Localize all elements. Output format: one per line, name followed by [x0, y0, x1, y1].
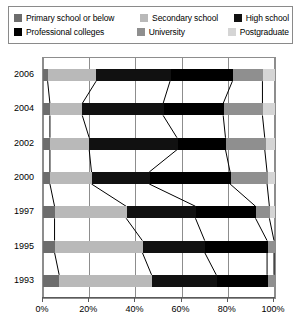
x-axis-tick	[134, 297, 135, 302]
y-axis-tick-label: 1995	[14, 241, 34, 251]
bar-segment	[43, 275, 59, 287]
y-axis-tick-label: 2000	[14, 172, 34, 182]
y-axis-tick-label: 2006	[14, 69, 34, 79]
bar-segment	[226, 138, 265, 150]
stacked-bars	[43, 58, 275, 298]
bar-segment	[92, 172, 150, 184]
bar-segment	[266, 138, 275, 150]
bar-segment	[268, 241, 275, 253]
x-axis-tick	[88, 297, 89, 302]
x-axis-tick	[273, 297, 274, 302]
legend-swatch-icon	[234, 14, 242, 22]
table-row	[43, 138, 275, 150]
bar-segment	[270, 206, 275, 218]
x-axis: 0%20%40%60%80%100%	[42, 297, 275, 323]
legend-swatch-icon	[14, 28, 22, 36]
y-axis-tick-label: 2004	[14, 103, 34, 113]
table-row	[43, 103, 275, 115]
y-axis-labels: 2006200420022000199719951993	[0, 57, 38, 297]
bar-segment	[256, 206, 270, 218]
table-row	[43, 275, 275, 287]
x-axis-line	[42, 297, 275, 298]
legend-swatch-icon	[140, 14, 148, 22]
bar-segment	[152, 275, 217, 287]
table-row	[43, 69, 275, 81]
legend-swatch-icon	[137, 28, 145, 36]
bar-segment	[43, 103, 50, 115]
y-axis-tick-label: 1997	[14, 206, 34, 216]
bar-segment	[50, 138, 89, 150]
bar-segment	[268, 275, 275, 287]
y-axis-tick-label: 1993	[14, 275, 34, 285]
legend-label: Professional colleges	[26, 28, 104, 37]
bar-segment	[196, 206, 256, 218]
bar-segment	[171, 69, 234, 81]
x-axis-tick-label: 80%	[218, 304, 236, 314]
bar-segment	[150, 172, 231, 184]
x-axis-tick	[42, 297, 43, 302]
legend-item-high-school: High school	[234, 14, 289, 23]
bar-segment	[59, 275, 152, 287]
x-axis-tick-label: 40%	[125, 304, 143, 314]
bar-segment	[127, 206, 197, 218]
legend-row-2: Professional colleges University Postgra…	[14, 25, 289, 39]
bar-segment	[55, 241, 143, 253]
bar-segment	[50, 172, 92, 184]
table-row	[43, 172, 275, 184]
bar-segment	[96, 69, 170, 81]
x-axis-tick-label: 0%	[35, 304, 48, 314]
x-axis-tick-label: 20%	[79, 304, 97, 314]
bar-segment	[263, 103, 275, 115]
bar-segment	[43, 138, 50, 150]
legend-label: Postgraduate	[240, 28, 289, 37]
bar-segment	[43, 241, 55, 253]
legend-swatch-icon	[228, 28, 236, 36]
legend-label: High school	[246, 14, 289, 23]
bar-segment	[178, 138, 227, 150]
legend-item-secondary-school: Secondary school	[140, 14, 234, 23]
chart-legend: Primary school or below Secondary school…	[8, 6, 293, 44]
bar-segment	[43, 206, 55, 218]
legend-label: University	[149, 28, 185, 37]
legend-item-professional-colleges: Professional colleges	[14, 28, 137, 37]
x-axis-tick-label: 100%	[261, 304, 284, 314]
legend-row-1: Primary school or below Secondary school…	[14, 11, 289, 25]
bar-segment	[268, 172, 275, 184]
legend-item-university: University	[137, 28, 228, 37]
x-axis-tick-label: 60%	[172, 304, 190, 314]
bar-segment	[55, 206, 127, 218]
legend-swatch-icon	[14, 14, 22, 22]
bar-segment	[224, 103, 263, 115]
legend-label: Secondary school	[152, 14, 218, 23]
bar-segment	[205, 241, 268, 253]
table-row	[43, 241, 275, 253]
bar-segment	[164, 103, 224, 115]
bar-segment	[89, 138, 177, 150]
y-axis-tick-label: 2002	[14, 138, 34, 148]
bar-segment	[43, 172, 50, 184]
bar-segment	[217, 275, 268, 287]
bar-segment	[82, 103, 163, 115]
bar-segment	[233, 69, 263, 81]
legend-label: Primary school or below	[26, 14, 114, 23]
legend-item-postgraduate: Postgraduate	[228, 28, 289, 37]
bar-segment	[50, 103, 82, 115]
chart-plot-area	[42, 57, 276, 299]
bar-segment	[263, 69, 275, 81]
bar-segment	[48, 69, 97, 81]
x-axis-tick	[227, 297, 228, 302]
bar-segment	[143, 241, 206, 253]
x-axis-tick	[181, 297, 182, 302]
table-row	[43, 206, 275, 218]
legend-item-primary-school-or-below: Primary school or below	[14, 14, 140, 23]
bar-segment	[231, 172, 268, 184]
